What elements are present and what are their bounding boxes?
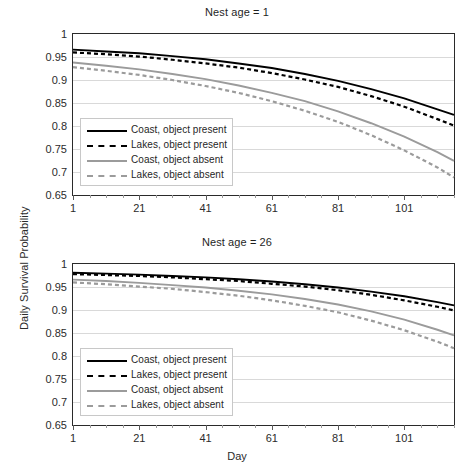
x-tick-minor (371, 425, 372, 428)
legend-swatch-solid-icon (85, 124, 129, 136)
x-tick-minor (288, 425, 289, 428)
x-tick-minor (189, 195, 190, 198)
x-tick-major (272, 195, 273, 200)
legend-item[interactable]: Lakes, object present (85, 137, 227, 152)
figure-root: Daily Survival Probability Nest age = 11… (0, 0, 474, 470)
x-tick-label: 41 (199, 202, 211, 214)
x-tick-minor (388, 425, 389, 428)
y-tick-label: 0.95 (46, 281, 67, 293)
y-tick-label: 1 (61, 258, 67, 270)
x-tick-label: 81 (332, 202, 344, 214)
x-tick-minor (321, 195, 322, 198)
y-tick-label: 0.65 (46, 419, 67, 431)
x-tick-minor (288, 195, 289, 198)
y-tick-label: 0.8 (52, 350, 67, 362)
x-tick-label: 21 (133, 202, 145, 214)
x-tick-label: 101 (395, 202, 413, 214)
x-tick-minor (388, 195, 389, 198)
x-tick-minor (106, 425, 107, 428)
x-tick-major (338, 195, 339, 200)
x-tick-label: 61 (266, 432, 278, 444)
y-tick-label: 0.8 (52, 120, 67, 132)
y-axis-label-container: Daily Survival Probability (2, 0, 24, 470)
x-tick-major (73, 425, 74, 430)
legend-swatch-dashed-icon (85, 139, 129, 151)
x-tick-label: 1 (70, 432, 76, 444)
x-tick-minor (123, 195, 124, 198)
y-tick-label: 0.7 (52, 166, 67, 178)
x-tick-minor (189, 425, 190, 428)
x-tick-minor (156, 195, 157, 198)
chart-legend: Coast, object presentLakes, object prese… (80, 348, 233, 416)
series-line (73, 52, 454, 125)
legend-swatch-solid-icon (85, 354, 129, 366)
y-tick-label: 0.9 (52, 74, 67, 86)
legend-label: Coast, object absent (129, 384, 223, 395)
x-tick-label: 81 (332, 432, 344, 444)
x-tick-minor (321, 425, 322, 428)
x-tick-major (206, 195, 207, 200)
legend-swatch-dashed-icon (85, 369, 129, 381)
legend-label: Lakes, object present (129, 139, 227, 150)
x-tick-major (272, 425, 273, 430)
legend-label: Coast, object present (129, 124, 227, 135)
x-tick-minor (421, 195, 422, 198)
y-tick-label: 0.75 (46, 373, 67, 385)
x-tick-minor (355, 425, 356, 428)
x-axis-title: Day (0, 450, 474, 462)
legend-label: Coast, object present (129, 354, 227, 365)
legend-item[interactable]: Coast, object present (85, 352, 227, 367)
x-tick-major (338, 425, 339, 430)
x-tick-minor (255, 195, 256, 198)
y-tick-label: 0.9 (52, 304, 67, 316)
x-tick-label: 1 (70, 202, 76, 214)
x-tick-major (139, 425, 140, 430)
legend-label: Lakes, object absent (129, 169, 224, 180)
legend-label: Lakes, object absent (129, 399, 224, 410)
x-tick-minor (305, 425, 306, 428)
x-tick-minor (123, 425, 124, 428)
x-tick-label: 41 (199, 432, 211, 444)
legend-item[interactable]: Lakes, object present (85, 367, 227, 382)
x-tick-label: 101 (395, 432, 413, 444)
y-tick-label: 0.75 (46, 143, 67, 155)
legend-item[interactable]: Coast, object absent (85, 382, 227, 397)
x-tick-minor (454, 195, 455, 198)
x-tick-major (404, 425, 405, 430)
x-tick-minor (437, 425, 438, 428)
y-tick-label: 0.95 (46, 51, 67, 63)
x-tick-minor (239, 425, 240, 428)
x-tick-major (73, 195, 74, 200)
legend-item[interactable]: Coast, object present (85, 122, 227, 137)
x-tick-major (206, 425, 207, 430)
legend-label: Coast, object absent (129, 154, 223, 165)
legend-swatch-solid-icon (85, 384, 129, 396)
x-tick-label: 21 (133, 432, 145, 444)
x-tick-label: 61 (266, 202, 278, 214)
x-tick-minor (172, 425, 173, 428)
chart-legend: Coast, object presentLakes, object prese… (80, 118, 233, 186)
y-tick-label: 1 (61, 28, 67, 40)
x-tick-minor (156, 425, 157, 428)
series-line (73, 282, 454, 348)
legend-swatch-dashed-icon (85, 169, 129, 181)
legend-item[interactable]: Lakes, object absent (85, 167, 227, 182)
x-tick-minor (305, 195, 306, 198)
x-tick-minor (371, 195, 372, 198)
legend-item[interactable]: Coast, object absent (85, 152, 227, 167)
y-axis-label: Daily Survival Probability (18, 206, 30, 330)
legend-item[interactable]: Lakes, object absent (85, 397, 227, 412)
x-tick-minor (355, 195, 356, 198)
legend-label: Lakes, object present (129, 369, 227, 380)
panel-title: Nest age = 26 (0, 236, 474, 248)
y-tick-label: 0.85 (46, 327, 67, 339)
series-line (73, 280, 454, 336)
x-tick-minor (222, 425, 223, 428)
x-tick-minor (421, 425, 422, 428)
panel-title: Nest age = 1 (0, 6, 474, 18)
x-tick-minor (255, 425, 256, 428)
x-tick-minor (222, 195, 223, 198)
x-tick-major (139, 195, 140, 200)
y-tick-label: 0.65 (46, 189, 67, 201)
x-tick-minor (106, 195, 107, 198)
